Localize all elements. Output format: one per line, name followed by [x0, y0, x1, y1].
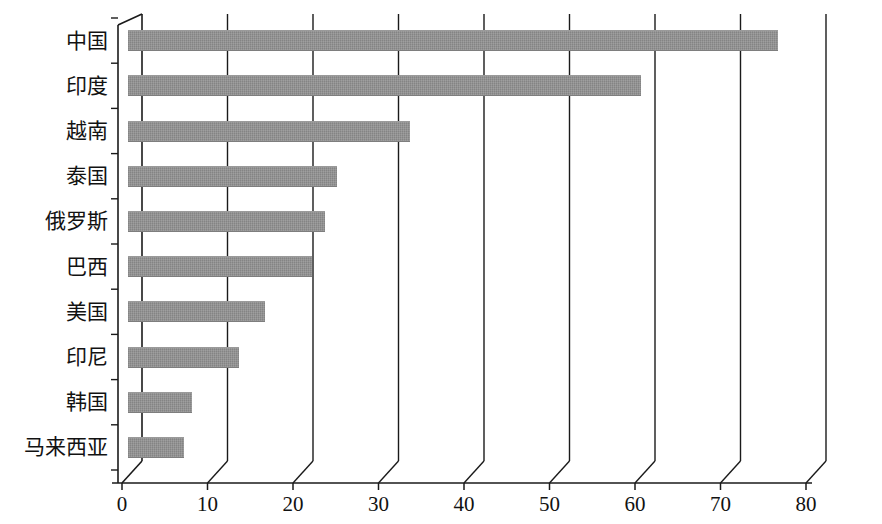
bar [128, 301, 265, 322]
bar [128, 392, 192, 413]
x-tick-label: 50 [539, 494, 560, 515]
x-tick-label: 60 [625, 494, 646, 515]
x-tick-label: 70 [710, 494, 731, 515]
bar [128, 121, 410, 142]
x-tick-label: 30 [368, 494, 389, 515]
x-tick-label: 40 [454, 494, 475, 515]
bar [128, 256, 312, 277]
bar [128, 211, 325, 232]
x-tick-label: 80 [796, 494, 817, 515]
x-tick-label: 0 [117, 494, 128, 515]
bar [128, 437, 184, 458]
bar [128, 30, 778, 51]
x-tick-label: 20 [283, 494, 304, 515]
bar [128, 166, 337, 187]
bar [128, 347, 239, 368]
bar [128, 75, 641, 96]
bar-chart: 中国印度越南泰国俄罗斯巴西美国印尼韩国马来西亚 0102030405060708… [0, 0, 882, 524]
x-tick-label: 10 [197, 494, 218, 515]
